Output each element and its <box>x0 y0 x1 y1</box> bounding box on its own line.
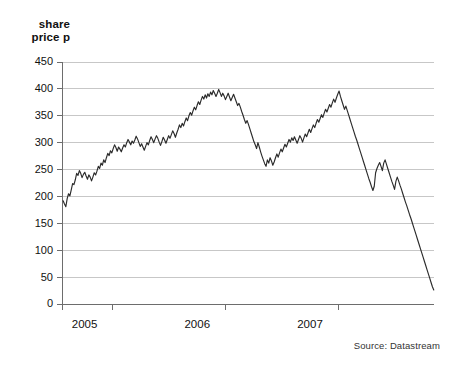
gridlines-group <box>62 62 434 277</box>
data-series-group <box>63 89 434 290</box>
y-tick-label: 350 <box>35 109 53 121</box>
y-tick-label: 0 <box>47 297 53 309</box>
y-tick-label: 200 <box>35 190 53 202</box>
y-tick-label: 450 <box>35 55 53 67</box>
x-tick-label: 2007 <box>297 318 323 330</box>
series-line-share-price <box>63 89 434 290</box>
y-tick-label: 100 <box>35 244 53 256</box>
y-tick-marks-group <box>57 62 62 304</box>
y-tick-label: 250 <box>35 163 53 175</box>
source-note: Source: Datastream <box>354 340 440 351</box>
x-tick-label: 2005 <box>72 318 98 330</box>
x-tick-labels-group: 200520062007 <box>72 318 323 330</box>
y-tick-labels-group: 050100150200250300350400450 <box>35 55 53 309</box>
y-tick-label: 150 <box>35 217 53 229</box>
y-tick-label: 50 <box>41 271 53 283</box>
chart-plot-area: 050100150200250300350400450 200520062007 <box>0 0 450 345</box>
x-axis-group <box>62 62 434 310</box>
x-tick-label: 2006 <box>184 318 210 330</box>
share-price-chart-figure: share price p 05010015020025030035040045… <box>0 0 450 370</box>
y-tick-label: 400 <box>35 82 53 94</box>
y-tick-label: 300 <box>35 136 53 148</box>
y-axis-title: share price p <box>8 18 70 44</box>
